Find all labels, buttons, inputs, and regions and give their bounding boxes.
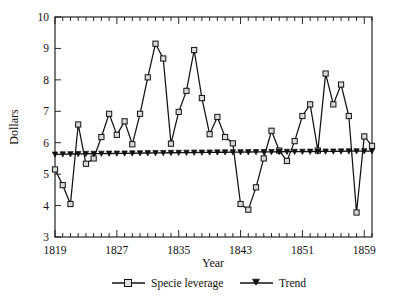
data-point-marker bbox=[137, 111, 142, 116]
x-axis-title: Year bbox=[202, 256, 224, 270]
data-point-marker bbox=[215, 114, 220, 119]
legend-item-trend: Trend bbox=[240, 277, 306, 289]
data-point-marker bbox=[68, 201, 73, 206]
data-point-marker bbox=[300, 113, 305, 118]
x-tick-label: 1819 bbox=[44, 244, 67, 256]
y-tick-label: 3 bbox=[43, 231, 49, 243]
data-point-marker bbox=[354, 210, 359, 215]
x-tick-label: 1843 bbox=[229, 244, 252, 256]
y-tick-label: 9 bbox=[43, 42, 49, 54]
y-axis-title: Dollars bbox=[7, 109, 21, 145]
legend-marker-open-square bbox=[125, 280, 132, 287]
data-point-marker bbox=[223, 134, 228, 139]
legend-marker-filled-triangle bbox=[253, 279, 260, 285]
data-point-marker bbox=[284, 158, 289, 163]
data-point-marker bbox=[76, 122, 81, 127]
y-tick-label: 4 bbox=[43, 200, 49, 212]
data-point-marker bbox=[52, 167, 57, 172]
legend-item-specie-leverage: Specie leverage bbox=[112, 277, 223, 290]
data-point-marker bbox=[114, 132, 119, 137]
x-tick-label: 1835 bbox=[167, 244, 190, 256]
data-point-marker bbox=[269, 128, 274, 133]
specie-leverage-line-chart: 181918271835184318511859 345678910 Year … bbox=[0, 0, 394, 300]
data-point-marker bbox=[238, 201, 243, 206]
data-point-marker bbox=[184, 88, 189, 93]
data-point-marker bbox=[207, 132, 212, 137]
data-point-marker bbox=[153, 41, 158, 46]
legend-label-specie-leverage: Specie leverage bbox=[151, 277, 223, 290]
y-tick-label: 5 bbox=[43, 168, 49, 180]
data-point-marker bbox=[161, 56, 166, 61]
x-axis-tick-labels: 181918271835184318511859 bbox=[44, 244, 377, 256]
chart-figure: 181918271835184318511859 345678910 Year … bbox=[0, 0, 394, 300]
data-point-marker bbox=[107, 111, 112, 116]
chart-legend: Specie leverage Trend bbox=[112, 277, 306, 290]
data-point-marker bbox=[130, 142, 135, 147]
y-axis-tick-labels: 345678910 bbox=[38, 11, 50, 243]
data-point-marker bbox=[122, 119, 127, 124]
x-tick-label: 1827 bbox=[105, 244, 128, 256]
data-point-marker bbox=[308, 102, 313, 107]
data-point-marker bbox=[331, 102, 336, 107]
data-point-marker bbox=[83, 161, 88, 166]
data-point-marker bbox=[261, 156, 266, 161]
y-tick-label: 10 bbox=[38, 11, 50, 23]
data-point-marker bbox=[346, 113, 351, 118]
data-point-marker bbox=[192, 47, 197, 52]
data-point-marker bbox=[292, 139, 297, 144]
x-tick-label: 1859 bbox=[353, 244, 376, 256]
data-point-marker bbox=[362, 134, 367, 139]
data-point-marker bbox=[323, 71, 328, 76]
y-tick-label: 6 bbox=[43, 137, 49, 149]
y-tick-label: 7 bbox=[43, 105, 49, 117]
data-point-marker bbox=[99, 134, 104, 139]
x-tick-label: 1851 bbox=[291, 244, 314, 256]
data-point-marker bbox=[168, 141, 173, 146]
data-point-marker bbox=[338, 82, 343, 87]
data-point-marker bbox=[176, 109, 181, 114]
data-point-marker bbox=[60, 183, 65, 188]
y-tick-label: 8 bbox=[43, 74, 49, 86]
data-point-marker bbox=[253, 185, 258, 190]
data-point-marker bbox=[199, 95, 204, 100]
data-point-marker bbox=[145, 75, 150, 80]
data-point-marker bbox=[246, 207, 251, 212]
data-point-marker bbox=[369, 143, 374, 148]
data-point-marker bbox=[230, 141, 235, 146]
legend-label-trend: Trend bbox=[279, 277, 306, 289]
